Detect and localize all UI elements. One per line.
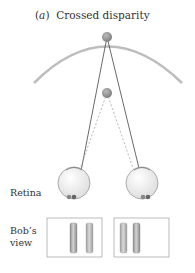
horopter-arc (34, 47, 182, 84)
right-view-rod-fixation (120, 223, 127, 253)
fixation-point (102, 32, 112, 42)
right-view-rod-near (133, 223, 140, 253)
left-eye (58, 167, 90, 199)
left-view-rod-fixation (86, 223, 93, 253)
retina-label: Retina (10, 187, 41, 199)
left-view-rod-near (70, 223, 77, 253)
bobs-view-label-line1: Bob’s (10, 225, 37, 237)
near-object (102, 88, 112, 98)
bobs-view-label-line2: view (10, 237, 37, 249)
bobs-view-label: Bob’s view (10, 225, 37, 249)
right-eye (126, 167, 158, 199)
